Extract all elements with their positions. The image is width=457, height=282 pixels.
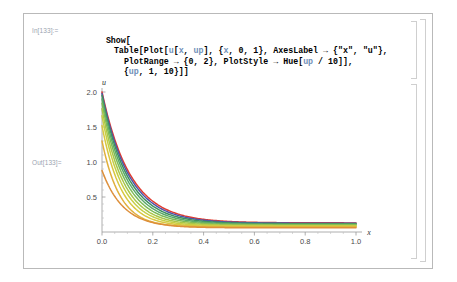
y-tick-label: 0.5 — [87, 193, 97, 202]
outer-cell-bracket[interactable] — [420, 19, 426, 262]
y-tick-label: 1.5 — [87, 123, 97, 132]
x-tick-label: 0.2 — [148, 237, 158, 246]
y-axis-label: u — [102, 78, 106, 87]
input-cell-label: In[133]:= — [32, 27, 58, 34]
plot-figure: 0.00.20.40.60.81.00.51.01.52.0xu — [64, 78, 374, 258]
x-tick-label: 0.4 — [198, 237, 208, 246]
plot-curve — [102, 170, 356, 227]
plot-curve — [102, 116, 356, 226]
plot-curve — [102, 141, 356, 227]
output-cell-label: Out[133]= — [32, 159, 62, 166]
x-tick-label: 0.0 — [97, 237, 107, 246]
y-tick-label: 2.0 — [87, 88, 97, 97]
plot-curve — [102, 93, 356, 223]
plot-curve — [102, 103, 356, 225]
x-tick-label: 1.0 — [351, 237, 361, 246]
output-cell-bracket[interactable] — [411, 84, 417, 259]
y-tick-label: 1.0 — [87, 158, 97, 167]
plot-curve — [102, 92, 356, 223]
mathematica-notebook: In[133]:= Show[ Table[Plot[u[x, up], {x,… — [23, 13, 433, 269]
x-tick-label: 0.6 — [249, 237, 259, 246]
input-cell[interactable]: In[133]:= Show[ Table[Plot[u[x, up], {x,… — [24, 14, 432, 74]
plot-curve — [102, 126, 356, 227]
graphics-output-cell[interactable]: 0.00.20.40.60.81.00.51.01.52.0xu — [64, 78, 374, 258]
x-axis-label: x — [366, 228, 371, 237]
x-tick-label: 0.8 — [300, 237, 310, 246]
code-line-4-text: {up, 1, 10}]] — [124, 67, 189, 76]
input-cell-bracket[interactable] — [411, 21, 417, 79]
